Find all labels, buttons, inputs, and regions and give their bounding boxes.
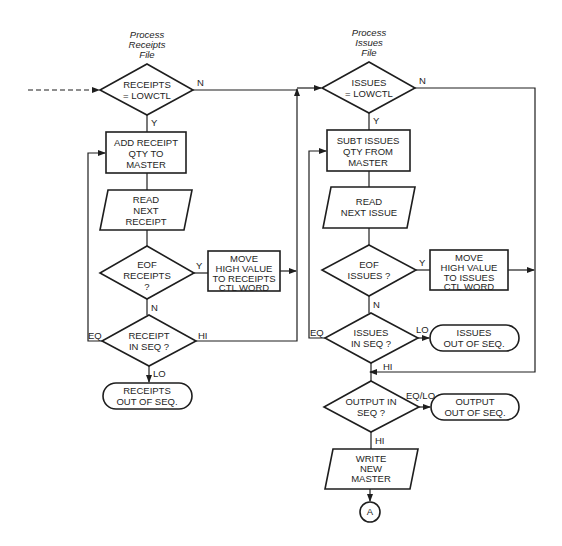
io-text: MASTER	[351, 473, 391, 484]
io-text: RECEIPT	[125, 216, 166, 227]
branch-label-n: N	[151, 302, 158, 313]
decision-text: IN SEQ ?	[351, 338, 391, 349]
decision-issues-lowctl: ISSUES = LOWCTL	[322, 62, 415, 113]
decision-text: = LOWCTL	[123, 90, 171, 101]
flowchart: Process Receipts File RECEIPTS = LOWCTL …	[0, 0, 562, 546]
decision-text: EOF	[359, 259, 379, 270]
title-line: File	[139, 49, 154, 60]
io-write-master: WRITE NEW MASTER	[325, 449, 418, 489]
branch-label-y: Y	[419, 257, 426, 268]
io-text: READ	[133, 194, 160, 205]
terminal-text: OUTPUT	[455, 396, 494, 407]
io-text: READ	[356, 196, 383, 207]
decision-text: SEQ ?	[357, 407, 385, 418]
title-line: File	[361, 47, 376, 58]
decision-output-in-seq: OUTPUT IN SEQ ?	[324, 381, 419, 432]
branch-label-lo: LO	[153, 368, 166, 379]
branch-label-hi: HI	[198, 330, 208, 341]
process-text: QTY TO	[129, 148, 164, 159]
terminal-text: OUT OF SEQ.	[116, 396, 177, 407]
decision-eof-receipts: EOF RECEIPTS ?	[100, 246, 194, 299]
process-text: ADD RECEIPT	[114, 137, 178, 148]
connector-label: A	[367, 506, 374, 517]
decision-text: ?	[144, 281, 149, 292]
decision-eof-issues: EOF ISSUES ?	[322, 245, 416, 296]
process-text: CTL WORD	[444, 281, 494, 292]
offpage-connector-a: A	[360, 502, 380, 522]
decision-text: RECEIPTS	[123, 270, 171, 281]
branch-label-hi: HI	[383, 361, 393, 372]
decision-text: ISSUES	[352, 77, 387, 88]
branch-label-eq: EQ	[88, 330, 102, 341]
decision-issues-in-seq: ISSUES IN SEQ ?	[325, 313, 418, 363]
eq-loop-arrow	[309, 151, 326, 338]
terminal-text: RECEIPTS	[123, 385, 171, 396]
process-move-high-receipts: MOVE HIGH VALUE TO RECEIPTS CTL WORD	[208, 251, 280, 293]
process-text: CTL WORD	[219, 282, 269, 293]
branch-label-lo: LO	[416, 324, 429, 335]
process-subt-issues: SUBT ISSUES QTY FROM MASTER	[327, 130, 410, 171]
right-column-title: Process Issues File	[352, 27, 387, 58]
branch-label-hi: HI	[375, 435, 385, 446]
eq-loop-arrow	[88, 153, 105, 341]
branch-label-eq: EQ	[310, 327, 324, 338]
branch-label-n: N	[197, 77, 204, 88]
process-text: MASTER	[126, 159, 166, 170]
io-read-receipt: READ NEXT RECEIPT	[100, 190, 192, 230]
decision-receipts-lowctl: RECEIPTS = LOWCTL	[100, 64, 193, 115]
branch-label-n: N	[419, 75, 426, 86]
decision-text: IN SEQ ?	[129, 341, 169, 352]
decision-text: ISSUES	[354, 327, 389, 338]
left-column-title: Process Receipts File	[129, 29, 166, 60]
branch-label-y: Y	[196, 260, 203, 271]
process-move-high-issues: MOVE HIGH VALUE TO ISSUES CTL WORD	[430, 250, 508, 292]
terminal-text: OUT OF SEQ.	[443, 338, 504, 349]
io-read-issue: READ NEXT ISSUE	[323, 187, 415, 228]
decision-text: EOF	[137, 259, 157, 270]
hi-connector-arrow	[196, 89, 297, 341]
process-text: SUBT ISSUES	[337, 135, 400, 146]
process-text: QTY FROM	[343, 146, 393, 157]
decision-text: RECEIPT	[128, 330, 169, 341]
decision-text: = LOWCTL	[345, 88, 393, 99]
branch-label-y: Y	[373, 115, 380, 126]
branch-label-eqlo: EQ/LO	[406, 390, 435, 401]
terminal-text: ISSUES	[457, 327, 492, 338]
terminal-text: OUT OF SEQ.	[444, 407, 505, 418]
branch-label-n: N	[373, 299, 380, 310]
terminal-issues-out-of-seq: ISSUES OUT OF SEQ.	[430, 325, 519, 351]
process-add-receipt: ADD RECEIPT QTY TO MASTER	[106, 132, 186, 173]
decision-receipt-in-seq: RECEIPT IN SEQ ?	[102, 315, 196, 366]
terminal-receipts-out-of-seq: RECEIPTS OUT OF SEQ.	[103, 383, 192, 409]
decision-text: ISSUES ?	[348, 270, 391, 281]
process-text: MASTER	[348, 157, 388, 168]
decision-text: RECEIPTS	[123, 79, 171, 90]
io-text: NEXT ISSUE	[341, 207, 397, 218]
terminal-output-out-of-seq: OUTPUT OUT OF SEQ.	[431, 394, 519, 420]
decision-text: OUTPUT IN	[345, 396, 396, 407]
branch-label-y: Y	[151, 117, 158, 128]
io-text: NEXT	[133, 205, 159, 216]
